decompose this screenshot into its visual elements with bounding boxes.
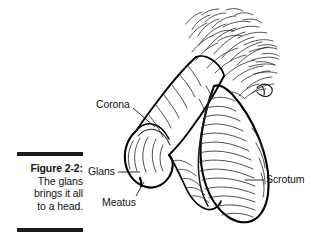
caption-rule-bottom [17,228,83,232]
shaft-root-curve [196,56,224,76]
corona-ridge [136,124,169,139]
caption-text: Figure 2-2: The glans brings it all to a… [17,162,83,212]
callout-label-meatus: Meatus [102,197,136,208]
scrotum-rugae [199,92,265,217]
caption-line-2: brings it all [17,187,83,200]
callout-label-scrotum: Scrotum [266,174,304,185]
figure-page: Figure 2-2: The glans brings it all to a… [0,0,325,249]
shaft-lower-outline [169,76,224,155]
callout-label-glans: Glans [88,166,115,177]
figure-caption-block: Figure 2-2: The glans brings it all to a… [17,152,83,212]
caption-line-1: The glans [17,175,83,188]
glans-contours [128,137,163,172]
skin-fold-detail [257,84,272,96]
figure-number: Figure 2-2: [17,162,83,175]
caption-line-3: to a head. [17,200,83,213]
glans-outline [125,131,173,188]
callout-leader-lines [118,108,264,196]
caption-rule-top [17,152,83,156]
callout-label-corona: Corona [96,99,130,110]
